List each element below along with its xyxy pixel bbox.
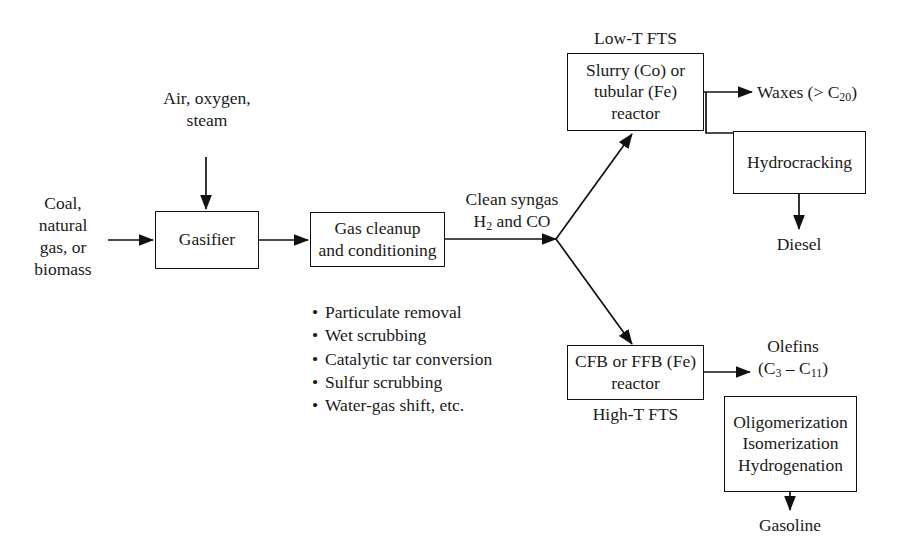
olefins-label: Olefins (C3 – C11) [718,335,868,379]
bullet-icon: • [312,348,325,371]
list-item: •Particulate removal [312,301,492,324]
upgrading-label-line1: Oligomerization [733,412,848,433]
gasifier-box: Gasifier [155,211,259,269]
list-item-label: Water-gas shift, etc. [325,395,464,415]
waxes-label: Waxes (> C20) [757,81,857,103]
feedstock-label-line4: biomass [18,258,108,280]
bullet-icon: • [312,371,325,394]
gasifier-box-label: Gasifier [179,229,235,250]
hydrocracking-box: Hydrocracking [733,131,866,194]
waxes-close-paren: ) [851,82,857,102]
oxidant-label-line2: steam [128,109,286,131]
low-t-reactor-label-line2: tubular (Fe) [586,81,685,102]
upgrading-label-line3: Hydrogenation [733,455,848,476]
cleanup-steps-items: •Particulate removal •Wet scrubbing •Cat… [312,301,492,417]
olefins-c3-open: (C [758,358,776,378]
feedstock-label-line2: natural [18,214,108,236]
list-item-label: Sulfur scrubbing [325,372,442,392]
low-t-reactor-label-line1: Slurry (Co) or [586,60,685,81]
gasoline-output-label: Gasoline [726,514,854,536]
low-t-reactor-label-line3: reactor [586,103,685,124]
high-t-reactor-label-line2: reactor [575,373,696,394]
clean-syngas-line1: Clean syngas [446,188,578,210]
olefins-c11-subscript: 11 [811,366,822,380]
low-t-reactor-box: Slurry (Co) or tubular (Fe) reactor [567,53,704,131]
upgrading-box: Oligomerization Isomerization Hydrogenat… [724,396,857,492]
cleanup-steps-list: •Particulate removal •Wet scrubbing •Cat… [312,301,492,417]
upgrading-label-line2: Isomerization [733,433,848,454]
oxidant-label-line1: Air, oxygen, [128,87,286,109]
olefins-line1: Olefins [718,335,868,357]
list-item: •Catalytic tar conversion [312,348,492,371]
gas-cleanup-label-line2: and conditioning [318,240,436,261]
clean-syngas-h: H [474,211,487,231]
list-item-label: Wet scrubbing [325,325,426,345]
connector-waxes-to-hydrocracking [706,92,735,133]
clean-syngas-co: and CO [492,211,550,231]
waxes-text: Waxes (> C [757,82,839,102]
high-t-fts-label: High-T FTS [567,403,704,425]
high-t-reactor-label-line1: CFB or FFB (Fe) [575,351,696,372]
high-t-reactor-box: CFB or FFB (Fe) reactor [567,345,704,400]
list-item: •Water-gas shift, etc. [312,394,492,417]
list-item-label: Particulate removal [325,302,462,322]
low-t-fts-label: Low-T FTS [567,27,704,49]
list-item-label: Catalytic tar conversion [325,349,492,369]
clean-syngas-line2: H2 and CO [446,210,578,232]
olefins-range-dash: – C [781,358,810,378]
waxes-subscript: 20 [839,90,851,104]
list-item: •Sulfur scrubbing [312,371,492,394]
bullet-icon: • [312,301,325,324]
hydrocracking-box-label: Hydrocracking [747,152,852,173]
diesel-output-label: Diesel [739,233,859,255]
olefins-line2: (C3 – C11) [718,357,868,379]
bullet-icon: • [312,324,325,347]
process-flow-diagram: Coal, natural gas, or biomass Air, oxyge… [0,0,904,541]
gas-cleanup-label-line1: Gas cleanup [318,218,436,239]
gas-cleanup-box: Gas cleanup and conditioning [310,212,445,267]
list-item: •Wet scrubbing [312,324,492,347]
oxidant-label: Air, oxygen, steam [128,87,286,131]
feedstock-label-line3: gas, or [18,236,108,258]
olefins-close-paren: ) [822,358,828,378]
bullet-icon: • [312,394,325,417]
clean-syngas-label: Clean syngas H2 and CO [446,188,578,232]
feedstock-label: Coal, natural gas, or biomass [18,192,108,280]
feedstock-label-line1: Coal, [18,192,108,214]
arrow-split-to-hight-reactor [556,239,632,344]
